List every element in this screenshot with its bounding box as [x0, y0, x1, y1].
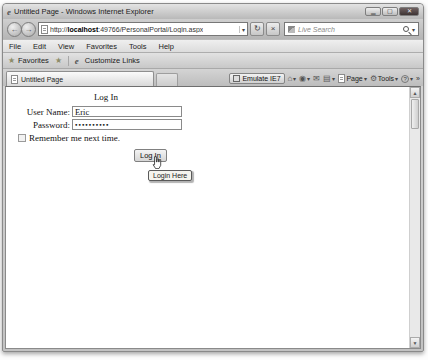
- print-icon: ▤: [323, 75, 331, 83]
- vertical-scrollbar[interactable]: ▲ ▼: [409, 87, 420, 348]
- command-bar-overflow-chevron[interactable]: »: [416, 75, 420, 82]
- customize-links-label: Customize Links: [85, 56, 140, 65]
- emulate-ie7-label: Emulate IE7: [242, 75, 280, 82]
- home-dropdown-icon[interactable]: ▾: [293, 76, 296, 82]
- favorites-button[interactable]: ★ Favorites: [8, 56, 49, 65]
- login-form: Log In User Name: Password: Remember me …: [16, 92, 196, 162]
- login-heading: Log In: [16, 92, 196, 102]
- help-button[interactable]: ? ▾: [401, 75, 413, 83]
- username-input[interactable]: [72, 106, 182, 117]
- add-favorite-star-icon: ★: [55, 56, 62, 65]
- search-magnifier-icon[interactable]: [403, 26, 409, 32]
- tools-dropdown-icon: ▾: [395, 76, 398, 82]
- page-dropdown-icon: ▾: [364, 76, 367, 82]
- menu-view[interactable]: View: [58, 42, 74, 51]
- minimize-button[interactable]: ▁: [365, 7, 381, 16]
- username-label: User Name:: [16, 107, 72, 117]
- page-menu-icon: [338, 74, 345, 83]
- favorites-bar: ★ Favorites ★ e Customize Links: [3, 52, 423, 68]
- address-url[interactable]: http://localhost:49766/PersonalPortal/Lo…: [50, 26, 203, 33]
- new-tab-button[interactable]: [156, 73, 178, 86]
- maximize-button[interactable]: ▢: [382, 7, 398, 16]
- forward-button[interactable]: →: [21, 22, 36, 37]
- print-button[interactable]: ▤ ▾: [323, 75, 335, 83]
- search-box[interactable]: Live Search ▾: [284, 22, 419, 36]
- menu-file[interactable]: File: [9, 42, 21, 51]
- remember-me-row: Remember me next time.: [18, 133, 196, 143]
- menu-edit[interactable]: Edit: [33, 42, 46, 51]
- favorites-star-icon: ★: [8, 56, 15, 65]
- read-mail-button[interactable]: ✉: [313, 75, 320, 83]
- tab-label: Untitled Page: [21, 76, 63, 83]
- login-tooltip: Login Here: [148, 170, 192, 181]
- emulate-ie7-button[interactable]: Emulate IE7: [229, 73, 284, 84]
- remember-me-label: Remember me next time.: [29, 133, 120, 143]
- username-row: User Name:: [16, 106, 196, 117]
- favorites-label: Favorites: [18, 56, 49, 65]
- customize-links-item[interactable]: e Customize Links: [75, 56, 140, 66]
- browser-viewport: Log In User Name: Password: Remember me …: [5, 86, 421, 349]
- address-bar[interactable]: http://localhost:49766/PersonalPortal/Lo…: [38, 22, 248, 36]
- feeds-dropdown-icon[interactable]: ▾: [307, 76, 310, 82]
- close-button[interactable]: ✕: [399, 7, 419, 16]
- menu-bar: File Edit View Favorites Tools Help: [3, 39, 423, 52]
- search-input[interactable]: Live Search: [298, 26, 400, 33]
- tab-favicon: [11, 75, 18, 84]
- scroll-down-button[interactable]: ▼: [410, 337, 420, 348]
- password-input[interactable]: [72, 119, 182, 130]
- window-title: Untitled Page - Windows Internet Explore…: [14, 7, 154, 16]
- home-icon: ⌂: [288, 75, 293, 83]
- customize-links-icon: e: [75, 56, 79, 66]
- remember-me-checkbox[interactable]: [18, 134, 26, 142]
- tab-untitled-page[interactable]: Untitled Page: [6, 71, 154, 86]
- add-favorite-button[interactable]: ★: [55, 56, 62, 65]
- page-menu-label: Page: [346, 75, 362, 82]
- caption-buttons: ▁ ▢ ✕: [365, 7, 419, 16]
- feeds-icon: ◉: [299, 75, 306, 83]
- password-row: Password:: [16, 119, 196, 130]
- favorites-separator: [68, 56, 69, 66]
- page-favicon: [41, 25, 48, 34]
- menu-favorites[interactable]: Favorites: [86, 42, 117, 51]
- tools-menu-label: Tools: [378, 75, 394, 82]
- tab-row: Untitled Page Emulate IE7 ⌂ ▾ ◉ ▾ ✉ ▤ ▾: [3, 68, 423, 86]
- tools-gear-icon: ⚙: [370, 75, 377, 83]
- help-dropdown-icon: ▾: [410, 76, 413, 82]
- back-button[interactable]: ←: [7, 22, 22, 37]
- menu-tools[interactable]: Tools: [129, 42, 147, 51]
- help-icon: ?: [401, 75, 409, 83]
- live-search-icon: [288, 26, 295, 33]
- ie-logo-icon: e: [7, 7, 11, 17]
- scroll-up-button[interactable]: ▲: [410, 87, 420, 98]
- navigation-bar: ← → http://localhost:49766/PersonalPorta…: [3, 19, 423, 39]
- search-dropdown-icon[interactable]: ▾: [412, 26, 415, 33]
- maximize-icon: ▢: [383, 7, 397, 16]
- print-dropdown-icon[interactable]: ▾: [332, 76, 335, 82]
- page-menu-button[interactable]: Page ▾: [338, 74, 366, 83]
- address-dropdown-icon[interactable]: ▾: [239, 26, 245, 33]
- refresh-button[interactable]: ↻: [250, 22, 264, 36]
- home-button[interactable]: ⌂ ▾: [288, 75, 297, 83]
- mail-icon: ✉: [313, 75, 320, 83]
- title-bar[interactable]: e Untitled Page - Windows Internet Explo…: [3, 4, 423, 19]
- login-button-area: Log In Login Here: [134, 149, 194, 162]
- close-icon: ✕: [400, 7, 418, 16]
- password-label: Password:: [16, 120, 72, 130]
- tools-menu-button[interactable]: ⚙ Tools ▾: [370, 75, 398, 83]
- hand-cursor-icon: [150, 156, 162, 169]
- menu-help[interactable]: Help: [159, 42, 174, 51]
- stop-button[interactable]: ×: [266, 22, 280, 36]
- scrollbar-thumb[interactable]: [411, 99, 419, 129]
- feeds-button[interactable]: ◉ ▾: [299, 75, 310, 83]
- minimize-icon: ▁: [366, 7, 380, 16]
- emulate-ie7-icon: [233, 75, 240, 82]
- browser-window: e Untitled Page - Windows Internet Explo…: [2, 3, 424, 352]
- command-bar: Emulate IE7 ⌂ ▾ ◉ ▾ ✉ ▤ ▾ Page ▾: [229, 73, 420, 86]
